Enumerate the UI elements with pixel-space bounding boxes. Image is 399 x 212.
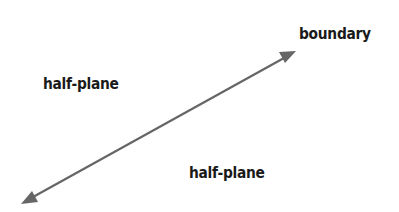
half-plane-diagram: boundary half-plane half-plane [0, 0, 399, 212]
boundary-label: boundary [299, 27, 371, 42]
half-plane-lower-label: half-plane [189, 166, 265, 181]
half-plane-upper-label: half-plane [43, 77, 119, 92]
arrowhead-upper-right-icon [279, 51, 296, 63]
arrowhead-lower-left-icon [21, 191, 38, 204]
